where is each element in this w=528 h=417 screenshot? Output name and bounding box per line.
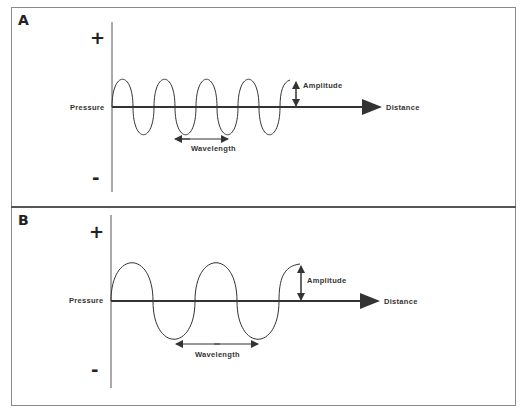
minus-sign: - (91, 359, 98, 380)
plus-sign: + (89, 221, 104, 242)
plus-sign: + (90, 27, 105, 48)
pressure-label: Pressure (70, 103, 105, 112)
amplitude-label: Amplitude (307, 276, 346, 285)
panel-b: B + - Pressure Distance Amplitude Wavele… (18, 212, 418, 388)
wavelength-label: Wavelength (191, 144, 236, 153)
panel-a: A + - Pressure Distance Amplitude Wavele… (18, 12, 420, 192)
wavelength-label: Wavelength (195, 350, 240, 359)
panel-b-label: B (18, 212, 29, 228)
distance-label: Distance (384, 297, 418, 306)
pressure-label: Pressure (69, 296, 104, 305)
panel-a-label: A (18, 12, 29, 28)
minus-sign: - (92, 167, 99, 188)
wave-diagram: A + - Pressure Distance Amplitude Wavele… (0, 0, 528, 417)
amplitude-label: Amplitude (303, 81, 342, 90)
distance-label: Distance (386, 103, 420, 112)
